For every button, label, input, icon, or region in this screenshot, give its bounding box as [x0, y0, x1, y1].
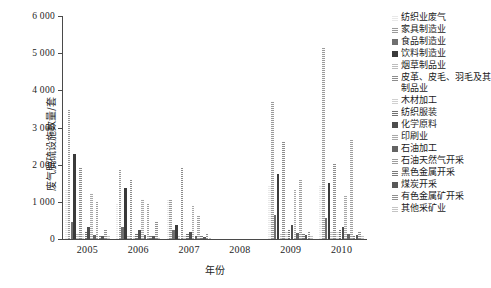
y-tick-label: 3 000 — [32, 123, 55, 133]
x-axis-label-2009: 2009 — [280, 244, 301, 255]
legend-swatch-icon — [392, 194, 398, 200]
x-axis-title: 年份 — [62, 262, 367, 277]
legend-swatch-icon — [392, 146, 398, 152]
bar-series-layer — [62, 16, 367, 239]
legend-item[interactable]: 有色金属矿开采 — [392, 191, 491, 202]
bar — [107, 236, 110, 239]
bar — [310, 236, 313, 239]
legend-label: 石油加工 — [401, 143, 437, 154]
legend-label: 纺织业废气 — [401, 12, 446, 23]
bar — [181, 167, 184, 239]
legend-item[interactable]: 皮革、皮毛、羽毛及其制品业 — [392, 72, 491, 94]
legend-item[interactable]: 纺织服装 — [392, 107, 491, 118]
bar — [192, 206, 195, 239]
bar — [282, 142, 285, 239]
y-tick-label: 6 000 — [32, 11, 55, 21]
legend-label: 化学原料 — [401, 119, 437, 130]
bar — [158, 237, 161, 239]
legend-swatch-icon — [392, 63, 398, 69]
bar — [299, 179, 302, 239]
legend-item[interactable]: 印刷业 — [392, 131, 491, 142]
bar — [90, 193, 93, 239]
bar — [68, 109, 71, 239]
legend-swatch-icon — [392, 206, 398, 212]
legend-item[interactable]: 木材加工 — [392, 95, 491, 106]
legend-item[interactable]: 煤炭开采 — [392, 179, 491, 190]
bar — [124, 188, 127, 239]
x-axis-label-2006: 2006 — [128, 244, 149, 255]
legend-label: 家具制造业 — [401, 24, 446, 35]
legend-swatch-icon — [392, 182, 398, 188]
legend-item[interactable]: 化学原料 — [392, 119, 491, 130]
chart-legend: 纺织业废气家具制造业食品制造业饮料制造业烟草制品业皮革、皮毛、羽毛及其制品业木材… — [392, 12, 491, 215]
legend-swatch-icon — [392, 158, 398, 164]
legend-swatch-icon — [392, 75, 398, 81]
legend-label: 木材加工 — [401, 95, 437, 106]
bar — [322, 48, 325, 239]
x-axis-label-2008: 2008 — [229, 244, 250, 255]
legend-item[interactable]: 石油加工 — [392, 143, 491, 154]
legend-label: 煤炭开采 — [401, 179, 437, 190]
y-tick-label: 0 — [50, 234, 55, 244]
legend-item[interactable]: 家具制造业 — [392, 24, 491, 35]
bar — [350, 139, 353, 239]
legend-label: 食品制造业 — [401, 36, 446, 47]
x-axis-label-2007: 2007 — [178, 244, 199, 255]
x-axis-label-2010: 2010 — [331, 244, 352, 255]
y-tick-label: 2 000 — [32, 160, 55, 170]
legend-label: 皮革、皮毛、羽毛及其制品业 — [401, 72, 491, 94]
legend-label: 黑色金属开采 — [401, 167, 455, 178]
legend-label: 有色金属矿开采 — [401, 191, 464, 202]
legend-label: 其他采矿业 — [401, 203, 446, 214]
legend-item[interactable]: 烟草制品业 — [392, 60, 491, 71]
y-tick-label: 4 000 — [32, 85, 55, 95]
y-tick-mark — [58, 239, 62, 240]
legend-item[interactable]: 其他采矿业 — [392, 203, 491, 214]
bar — [141, 199, 144, 240]
legend-swatch-icon — [392, 98, 398, 104]
legend-label: 烟草制品业 — [401, 60, 446, 71]
bar — [277, 174, 280, 239]
legend-label: 石油天然气开采 — [401, 155, 464, 166]
bar — [344, 196, 347, 239]
bar — [79, 167, 82, 239]
legend-swatch-icon — [392, 122, 398, 128]
legend-swatch-icon — [392, 134, 398, 140]
legend-swatch-icon — [392, 27, 398, 33]
legend-swatch-icon — [392, 39, 398, 45]
x-axis-line — [62, 239, 367, 240]
bar — [130, 179, 133, 239]
legend-item[interactable]: 黑色金属开采 — [392, 167, 491, 178]
bar — [73, 154, 76, 239]
y-tick-label: 5 000 — [32, 48, 55, 58]
y-axis-title: 废气脱硫设施数量/套 — [43, 97, 58, 190]
legend-item[interactable]: 纺织业废气 — [392, 12, 491, 23]
legend-item[interactable]: 饮料制造业 — [392, 48, 491, 59]
bar — [333, 164, 336, 239]
legend-label: 饮料制造业 — [401, 48, 446, 59]
legend-item[interactable]: 食品制造业 — [392, 36, 491, 47]
bar — [209, 237, 212, 239]
bar — [328, 183, 331, 239]
x-axis-label-2005: 2005 — [77, 244, 98, 255]
chart-figure: 废气脱硫设施数量/套 01 0002 0003 0004 0005 0006 0… — [0, 0, 491, 288]
bar — [96, 201, 99, 239]
bar — [361, 236, 364, 239]
legend-label: 纺织服装 — [401, 107, 437, 118]
legend-swatch-icon — [392, 170, 398, 176]
figure-caption — [0, 278, 491, 288]
legend-swatch-icon — [392, 51, 398, 57]
legend-label: 印刷业 — [401, 131, 428, 142]
bar — [294, 190, 297, 239]
legend-item[interactable]: 石油天然气开采 — [392, 155, 491, 166]
bar — [147, 203, 150, 239]
y-tick-label: 1 000 — [32, 197, 55, 207]
legend-swatch-icon — [392, 15, 398, 21]
legend-swatch-icon — [392, 110, 398, 116]
